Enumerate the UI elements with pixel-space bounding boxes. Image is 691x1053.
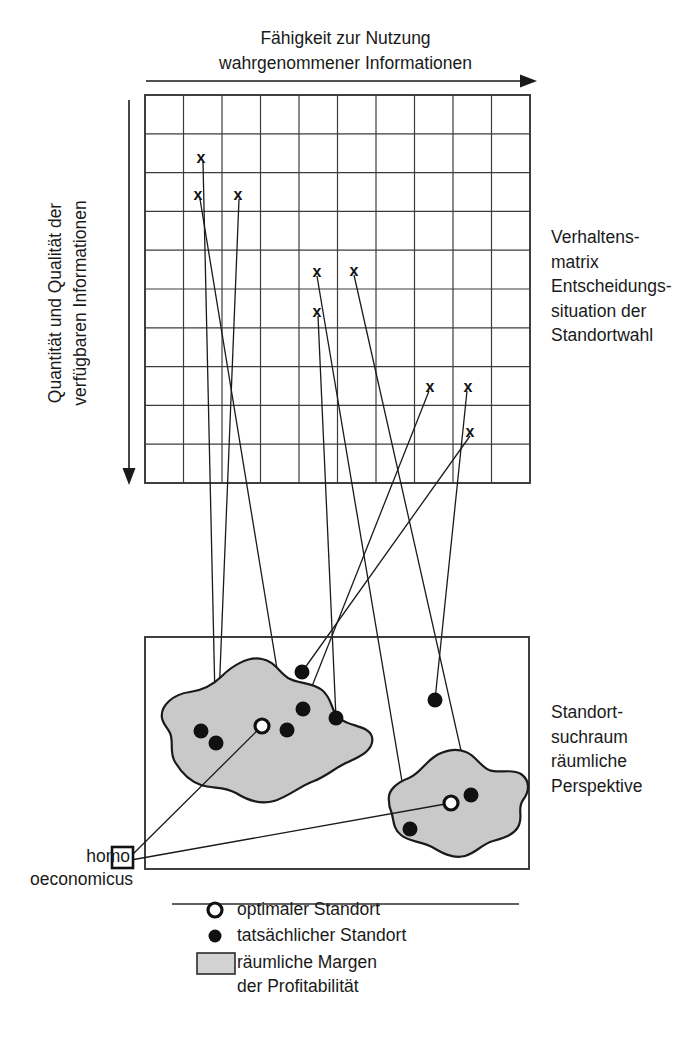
legend-label-optimal-site: optimaler Standort [237, 897, 380, 921]
matrix-marker-x3: x [234, 186, 243, 203]
legend-open-circle-icon [208, 903, 222, 917]
y-axis-title: Quantität und Qualität der verfügbaren I… [43, 173, 93, 433]
location-choice-diagram: x x x x x x x x x [0, 0, 691, 1053]
matrix-marker-x9: x [466, 423, 475, 440]
matrix-marker-x2: x [194, 186, 203, 203]
actual-site-s8 [464, 788, 479, 803]
optimal-site-right [444, 796, 458, 810]
search-space-label: Standort- suchraum räumliche Perspektive [551, 700, 691, 798]
homo-oeconomicus-label: homo oeconomicus [30, 845, 130, 891]
matrix-marker-x6: x [313, 303, 322, 320]
behaviour-matrix-label: Verhaltens- matrix Entscheidungs- situat… [551, 225, 691, 348]
matrix-marker-x5: x [350, 262, 359, 279]
actual-site-s1 [296, 702, 311, 717]
matrix-marker-x4: x [313, 263, 322, 280]
actual-site-s6 [295, 665, 310, 680]
matrix-marker-x1: x [197, 149, 206, 166]
actual-site-s3 [194, 724, 209, 739]
actual-site-s2 [209, 736, 224, 751]
matrix-marker-x8: x [464, 378, 473, 395]
top-axis-arrow [146, 75, 537, 88]
matrix-marker-x7: x [426, 378, 435, 395]
actual-site-s7 [428, 693, 443, 708]
actual-site-s5 [329, 711, 344, 726]
legend-filled-circle-icon [209, 930, 222, 943]
actual-site-s4 [280, 723, 295, 738]
legend-symbols [197, 903, 235, 974]
legend-label-actual-site: tatsächlicher Standort [237, 923, 406, 947]
optimal-site-left [255, 719, 269, 733]
left-axis-arrow [123, 100, 136, 485]
x-axis-title: Fähigkeit zur Nutzung wahrgenommener Inf… [0, 26, 691, 76]
legend-shaded-rect-icon [197, 953, 235, 974]
legend-label-profitability-margin: räumliche Margen der Profitabilität [237, 950, 497, 998]
actual-site-s9 [403, 822, 418, 837]
